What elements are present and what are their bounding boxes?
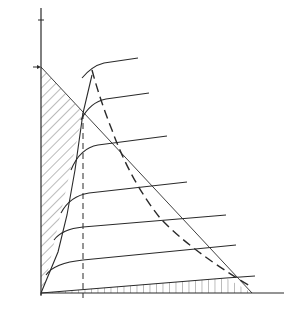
saturation-region-hatch [41, 67, 83, 293]
ib-curve-3 [71, 136, 167, 170]
ib-curve-2 [81, 93, 149, 120]
ib-curve-1 [82, 58, 138, 78]
ib-curve-4 [61, 182, 187, 213]
ib-curve-5 [54, 215, 226, 240]
maximum-power-curve [92, 70, 250, 286]
ib-curve-6 [46, 245, 236, 275]
load-line [41, 67, 252, 293]
characteristic-diagram [0, 0, 298, 319]
